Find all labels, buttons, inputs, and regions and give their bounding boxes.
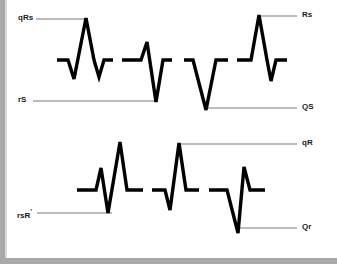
waveform-qRs — [57, 18, 113, 79]
label-rsR-prime: rsR' — [17, 208, 32, 220]
label-qRs: qRs — [18, 14, 33, 22]
waveform-rS — [122, 42, 172, 102]
waveform-qR — [152, 143, 199, 210]
label-Qr: Qr — [302, 223, 311, 231]
waveform-Rs — [237, 15, 287, 81]
label-qR: qR — [302, 139, 313, 147]
ecg-waveform-canvas — [0, 0, 337, 264]
ecg-nomenclature-figure: qRs Rs rS QS qR rsR' Qr — [0, 0, 337, 264]
waveform-row-1 — [57, 15, 287, 110]
waveform-rsRprime — [77, 142, 143, 213]
label-rS: rS — [18, 96, 26, 104]
label-rsR-prime-tick: ' — [30, 208, 32, 215]
waveform-row-2 — [77, 142, 265, 233]
label-Rs: Rs — [302, 11, 312, 19]
waveform-Qr — [209, 167, 265, 233]
label-rsR-prime-base: rsR — [17, 211, 30, 220]
waveform-QS — [184, 60, 228, 110]
label-QS: QS — [302, 103, 314, 111]
leader-lines-row-2 — [37, 144, 297, 228]
